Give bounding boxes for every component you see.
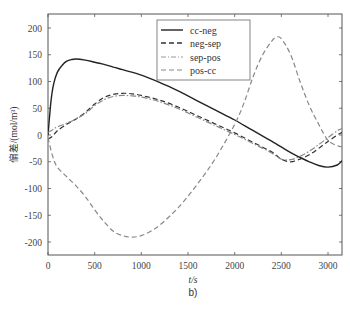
legend-label: cc-neg	[190, 25, 217, 36]
y-tick-label: 0	[37, 131, 42, 141]
y-tick-label: 200	[28, 24, 43, 34]
y-tick-label: -150	[25, 211, 43, 221]
legend-label: neg-sep	[190, 38, 221, 49]
x-tick-label: 0	[46, 261, 51, 271]
y-tick-label: 150	[28, 50, 43, 60]
x-tick-label: 2500	[272, 261, 291, 271]
x-tick-label: 3000	[319, 261, 338, 271]
x-tick-label: 1000	[132, 261, 151, 271]
legend-label: pos-cc	[190, 65, 217, 76]
x-tick-label: 500	[88, 261, 103, 271]
y-tick-label: 50	[33, 104, 43, 114]
line-chart: -200-150-100-50050100150200 050010001500…	[0, 0, 350, 311]
y-tick-label: -100	[25, 184, 43, 194]
x-axis-title: t/s	[189, 275, 198, 285]
legend-label: sep-pos	[190, 52, 221, 63]
series-line-sep-pos	[48, 95, 342, 160]
y-tick-label: -200	[25, 238, 43, 248]
subfigure-label: b)	[189, 287, 198, 298]
y-tick-label: -50	[29, 157, 42, 167]
x-tick-label: 1500	[179, 261, 198, 271]
x-tick-label: 2000	[225, 261, 244, 271]
y-tick-label: 100	[28, 77, 43, 87]
y-axis-title: 偏差/(mol/m³)	[8, 107, 20, 164]
series-line-neg-sep	[48, 93, 342, 162]
legend: cc-neg neg-sep sep-pos pos-cc	[157, 20, 250, 80]
